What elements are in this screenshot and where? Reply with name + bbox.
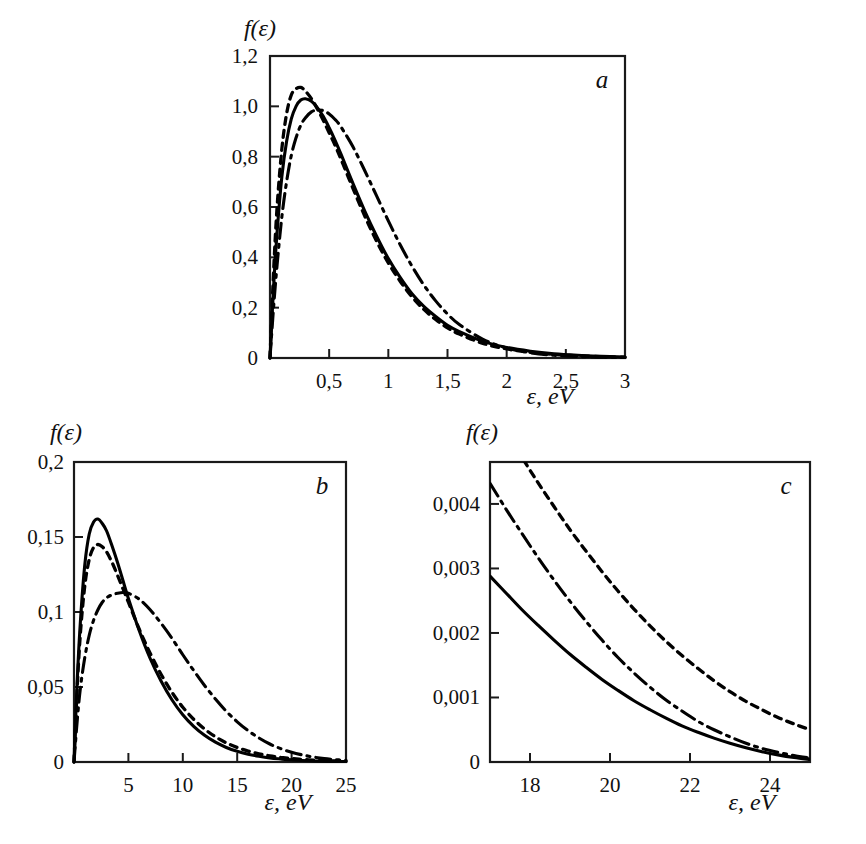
x-tick-label: 20 [600, 773, 621, 797]
x-tick-label: 1,5 [434, 369, 460, 393]
y-tick-label: 0,4 [232, 245, 259, 269]
panel-c-plot: 1820222400,0010,0020,0030,004 f(ε) ε, eV… [416, 410, 866, 844]
panel-c-ylabel: f(ε) [466, 419, 498, 445]
panel-b-frame [74, 462, 346, 762]
curve-solid [270, 99, 625, 358]
panel-b-curves [74, 519, 346, 762]
panel-a-xlabel: ε, eV [527, 383, 576, 409]
y-tick-label: 0,2 [38, 450, 64, 474]
curve-dash-dot [74, 592, 346, 762]
y-tick-label: 0,6 [232, 195, 258, 219]
x-tick-label: 0,5 [316, 369, 342, 393]
panel-b-ylabel: f(ε) [50, 419, 82, 445]
curve-dashed [270, 87, 625, 358]
x-tick-label: 5 [123, 773, 134, 797]
y-tick-label: 1,2 [232, 44, 258, 68]
y-tick-label: 0,15 [27, 525, 64, 549]
y-tick-label: 0,002 [433, 621, 480, 645]
curve-dashed [490, 404, 810, 730]
panel-a-ticks [270, 106, 566, 358]
panel-b-axes [74, 462, 346, 762]
y-tick-label: 0,004 [433, 492, 481, 516]
panel-c-ticks [490, 504, 770, 762]
x-tick-label: 2 [501, 369, 512, 393]
panel-b-plot: 51015202500,050,10,150,2 f(ε) ε, eV b [0, 410, 430, 844]
curve-dash-dot [270, 110, 625, 358]
panel-c-xlabel: ε, eV [729, 789, 778, 815]
y-tick-label: 1,0 [232, 94, 258, 118]
curve-dash-dot [490, 483, 810, 758]
panel-b-xlabel: ε, eV [265, 789, 314, 815]
panel-c-frame [490, 462, 810, 762]
x-tick-label: 25 [336, 773, 357, 797]
panel-c-axes [490, 462, 810, 762]
panel-a-curves [270, 87, 625, 358]
x-tick-label: 15 [227, 773, 248, 797]
curve-dashed [74, 544, 346, 762]
x-tick-label: 10 [172, 773, 193, 797]
y-tick-label: 0,003 [433, 556, 480, 580]
y-tick-label: 0,001 [433, 685, 480, 709]
panel-c: 1820222400,0010,0020,0030,004 f(ε) ε, eV… [416, 410, 866, 844]
y-tick-label: 0 [248, 346, 259, 370]
panel-a-ylabel: f(ε) [244, 15, 276, 41]
panel-a-plot: 0,511,522,5300,20,40,60,81,01,2 f(ε) ε, … [150, 0, 710, 420]
y-tick-label: 0 [54, 750, 65, 774]
x-tick-label: 1 [383, 369, 394, 393]
x-tick-label: 22 [680, 773, 701, 797]
panel-b-letter: b [316, 472, 329, 499]
panel-b-tick-labels: 51015202500,050,10,150,2 [27, 450, 356, 797]
figure-three-panel-distribution: 0,511,522,5300,20,40,60,81,01,2 f(ε) ε, … [0, 0, 866, 844]
panel-b-ticks [74, 537, 292, 762]
panel-c-tick-labels: 1820222400,0010,0020,0030,004 [433, 492, 781, 797]
y-tick-label: 0 [470, 750, 481, 774]
panel-a: 0,511,522,5300,20,40,60,81,01,2 f(ε) ε, … [150, 0, 710, 420]
curve-solid [490, 576, 810, 759]
curve-solid [74, 519, 346, 762]
panel-c-curves [490, 404, 810, 759]
panel-a-letter: a [596, 66, 609, 93]
panel-c-letter: c [780, 472, 791, 499]
panel-b: 51015202500,050,10,150,2 f(ε) ε, eV b [0, 410, 430, 844]
y-tick-label: 0,8 [232, 145, 258, 169]
x-tick-label: 3 [620, 369, 631, 393]
x-tick-label: 18 [520, 773, 541, 797]
y-tick-label: 0,2 [232, 296, 258, 320]
y-tick-label: 0,1 [38, 600, 64, 624]
y-tick-label: 0,05 [27, 675, 64, 699]
